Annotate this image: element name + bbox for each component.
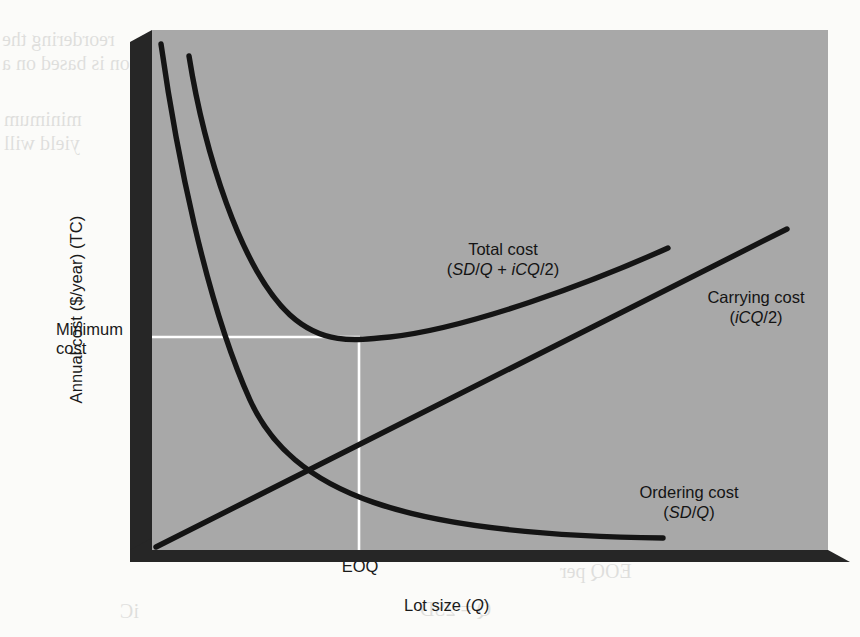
carrying-cost-formula: (iCQ/2) <box>674 307 838 327</box>
ordering-cost-formula: (SD/Q) <box>600 502 778 522</box>
formula-term-sd: SD <box>669 503 692 521</box>
formula-term-two: 2 <box>768 308 777 326</box>
formula-term-two: 2 <box>545 260 554 278</box>
carrying-cost-name: Carrying cost <box>674 287 838 307</box>
formula-term-icq: iCQ <box>511 260 539 278</box>
total-cost-formula: (SD/Q + iCQ/2) <box>417 259 589 279</box>
total-cost-name: Total cost <box>417 239 589 259</box>
eoq-cost-figure: reordering the tion is based on a minimu… <box>0 0 860 637</box>
formula-term-q: Q <box>696 503 709 521</box>
formula-term-icq: iCQ <box>735 308 763 326</box>
formula-plus: + <box>493 260 512 278</box>
carrying-cost-label: Carrying cost (iCQ/2) <box>674 287 838 327</box>
formula-term-sd: SD <box>452 260 475 278</box>
total-cost-label: Total cost (SD/Q + iCQ/2) <box>417 239 589 279</box>
left-bevel-face <box>130 30 152 562</box>
ordering-cost-name: Ordering cost <box>600 482 778 502</box>
formula-close-paren: ) <box>554 260 560 278</box>
ordering-cost-label: Ordering cost (SD/Q) <box>600 482 778 522</box>
formula-close-paren: ) <box>709 503 715 521</box>
formula-term-q: Q <box>480 260 493 278</box>
bottom-bevel-face <box>130 550 850 562</box>
formula-close-paren: ) <box>777 308 783 326</box>
